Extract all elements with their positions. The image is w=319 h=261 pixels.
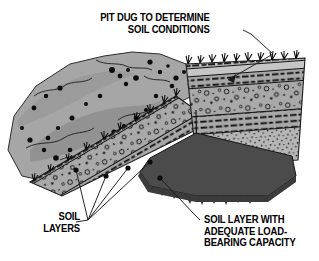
soil-layers-label: SOIL LAYERS	[15, 211, 80, 234]
soil-test-pit-figure: PIT DUG TO DETERMINE SOIL CONDITIONS SOI…	[0, 0, 319, 261]
leader-pit-elbow	[243, 30, 273, 54]
pit-dug-label: PIT DUG TO DETERMINE SOIL CONDITIONS	[100, 12, 209, 35]
bearing-layer-label: SOIL LAYER WITH ADEQUATE LOAD- BEARING C…	[204, 214, 296, 249]
leader-soil-2	[88, 176, 106, 220]
leader-bearing-hook	[194, 214, 200, 220]
